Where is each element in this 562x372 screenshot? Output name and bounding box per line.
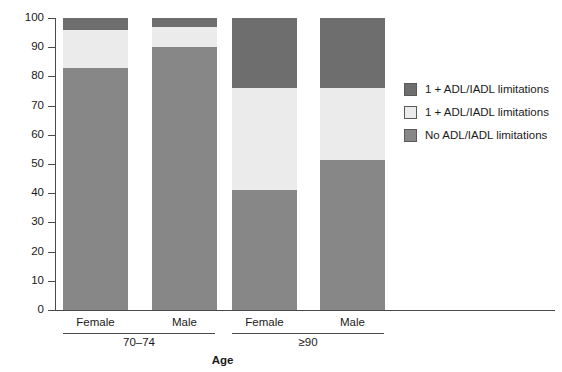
x-axis-category-label: Female bbox=[225, 316, 305, 329]
y-axis-tick-label: 10 bbox=[2, 275, 44, 287]
plot-area bbox=[55, 18, 390, 310]
legend-swatch-icon bbox=[404, 106, 417, 119]
y-axis-tick-label-wrap: 40 bbox=[0, 187, 44, 199]
bar-7074-male bbox=[152, 18, 217, 310]
stacked-bar-chart: 1009080706050403020100 FemaleMaleFemaleM… bbox=[0, 0, 562, 372]
y-axis-tick bbox=[48, 252, 55, 253]
bar-segment bbox=[152, 47, 217, 310]
x-axis-group-rule bbox=[232, 333, 384, 334]
y-axis-tick-label-wrap: 20 bbox=[0, 246, 44, 258]
y-axis-tick-label-wrap: 100 bbox=[0, 12, 44, 24]
legend-item-label: No ADL/IADL limitations bbox=[425, 129, 547, 142]
bar-90-male bbox=[320, 18, 385, 310]
y-axis-tick bbox=[48, 193, 55, 194]
y-axis-tick-label: 20 bbox=[2, 246, 44, 258]
y-axis-tick bbox=[48, 18, 55, 19]
legend-item-label: 1 + ADL/IADL limitations bbox=[425, 106, 549, 119]
y-axis-tick-label-wrap: 50 bbox=[0, 158, 44, 170]
bar-segment bbox=[232, 88, 297, 190]
bar-segment bbox=[152, 27, 217, 47]
y-axis-tick-label: 60 bbox=[2, 129, 44, 141]
x-axis-category-label: Male bbox=[313, 316, 393, 329]
y-axis-tick-label-wrap: 90 bbox=[0, 41, 44, 53]
y-axis-tick bbox=[48, 281, 55, 282]
x-axis-line bbox=[55, 310, 555, 311]
y-axis-tick bbox=[48, 310, 55, 311]
bar-segment bbox=[320, 18, 385, 88]
bar-segment bbox=[63, 30, 128, 68]
y-axis-tick-label-wrap: 80 bbox=[0, 70, 44, 82]
bar-90-female bbox=[232, 18, 297, 310]
y-axis-tick bbox=[48, 164, 55, 165]
y-axis-tick-label: 90 bbox=[2, 41, 44, 53]
legend-item: 1 + ADL/IADL limitations bbox=[404, 101, 562, 124]
y-axis-tick-label-wrap: 70 bbox=[0, 100, 44, 112]
x-axis-title: Age bbox=[55, 354, 390, 366]
y-axis-tick-label-wrap: 10 bbox=[0, 275, 44, 287]
y-axis-tick bbox=[48, 47, 55, 48]
x-axis-group-rule bbox=[63, 333, 215, 334]
y-axis-tick-label: 40 bbox=[2, 187, 44, 199]
legend-swatch-icon bbox=[404, 129, 417, 142]
bar-segment bbox=[152, 18, 217, 27]
x-axis-category-label: Female bbox=[56, 316, 136, 329]
y-axis-tick bbox=[48, 222, 55, 223]
legend-item-label: 1 + ADL/IADL limitations bbox=[425, 83, 549, 96]
chart-legend: 1 + ADL/IADL limitations1 + ADL/IADL lim… bbox=[404, 78, 562, 147]
y-axis-tick bbox=[48, 106, 55, 107]
bar-segment bbox=[63, 18, 128, 30]
y-axis-tick-label-wrap: 30 bbox=[0, 216, 44, 228]
x-axis-category-label: Male bbox=[145, 316, 225, 329]
y-axis-tick-label: 100 bbox=[2, 12, 44, 24]
y-axis-tick-label: 0 bbox=[2, 304, 44, 316]
legend-swatch-icon bbox=[404, 83, 417, 96]
x-axis-group-label: ≥90 bbox=[248, 336, 368, 349]
y-axis-tick-label: 30 bbox=[2, 216, 44, 228]
x-axis-group-label: 70–74 bbox=[79, 336, 199, 349]
bar-segment bbox=[232, 190, 297, 310]
legend-item: No ADL/IADL limitations bbox=[404, 124, 562, 147]
y-axis-tick bbox=[48, 135, 55, 136]
y-axis-tick-label: 80 bbox=[2, 70, 44, 82]
y-axis-tick-label-wrap: 0 bbox=[0, 304, 44, 316]
bar-segment bbox=[63, 68, 128, 310]
y-axis-tick bbox=[48, 76, 55, 77]
y-axis-tick-label-wrap: 60 bbox=[0, 129, 44, 141]
bar-segment bbox=[320, 88, 385, 160]
bar-segment bbox=[232, 18, 297, 88]
legend-item: 1 + ADL/IADL limitations bbox=[404, 78, 562, 101]
y-axis-tick-label: 50 bbox=[2, 158, 44, 170]
bar-segment bbox=[320, 160, 385, 310]
y-axis-tick-label: 70 bbox=[2, 100, 44, 112]
bar-7074-female bbox=[63, 18, 128, 310]
